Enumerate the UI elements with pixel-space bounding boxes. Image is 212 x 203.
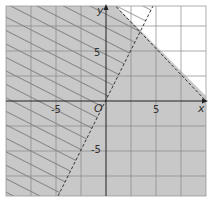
x-tick-neg5: -5: [51, 104, 61, 115]
x-axis-label: x: [197, 102, 205, 115]
origin-label: O: [94, 102, 103, 115]
x-tick-pos5: 5: [153, 104, 159, 115]
y-tick-neg5: -5: [91, 144, 101, 155]
y-axis-label: y: [96, 4, 104, 17]
y-tick-pos5: 5: [94, 47, 100, 58]
inequality-graph: y x O -5 5 5 -5: [0, 0, 212, 203]
